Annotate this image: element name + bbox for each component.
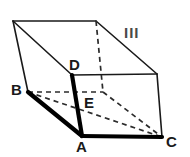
vertex-label-E: E xyxy=(84,95,94,110)
region-label-iii: III xyxy=(124,25,140,40)
vertex-label-D: D xyxy=(69,57,80,72)
edge-B-C-hidden xyxy=(28,92,162,137)
edge-A-C xyxy=(82,136,162,137)
figure-canvas xyxy=(0,0,190,157)
thick-edge-group xyxy=(28,75,162,137)
geometry-figure: B D E A C III xyxy=(0,0,190,157)
edge-topfrontright-C xyxy=(157,74,162,137)
edge-topbackleft-D xyxy=(13,21,72,75)
edge-D-topfrontright xyxy=(72,74,157,75)
dashed-edge-group xyxy=(28,21,162,137)
edge-topbackright-E-hidden xyxy=(96,21,103,92)
vertex-label-A: A xyxy=(76,139,87,154)
vertex-label-B: B xyxy=(11,82,22,97)
vertex-label-C: C xyxy=(166,134,177,149)
edge-E-C-hidden xyxy=(103,92,162,137)
